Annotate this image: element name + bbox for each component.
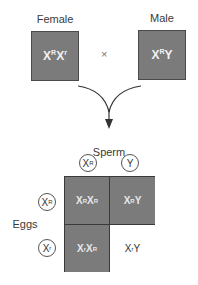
punnett-cell-xrr-xr: XrXR (65, 225, 110, 272)
punnett-cell-xrr-y: XrY (110, 225, 155, 272)
punnett-cell-xr-y: XRY (110, 177, 155, 225)
punnett-cell-xr-xr: XRXR (65, 177, 110, 225)
eggs-label: Eggs (12, 218, 38, 230)
sperm-gamete-y: Y (121, 154, 139, 172)
punnett-square: XRXR XRY XrXR XrY (64, 176, 155, 272)
egg-gamete-xr-recessive: Xr (38, 239, 56, 257)
sperm-gamete-xr: XR (79, 154, 97, 172)
egg-gamete-xr: XR (38, 193, 56, 211)
